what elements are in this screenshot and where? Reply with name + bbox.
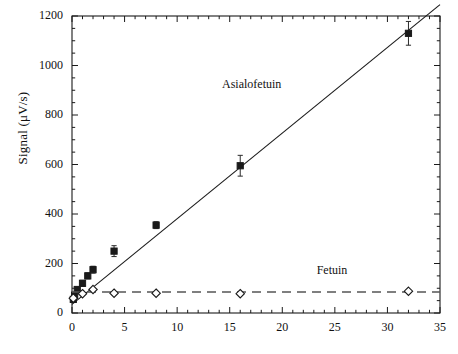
data-point-fetuin bbox=[404, 287, 412, 295]
data-point-asialofetuin bbox=[111, 248, 117, 254]
y-axis-tick-label: 800 bbox=[20, 107, 63, 122]
x-axis-tick-label: 35 bbox=[420, 320, 458, 335]
y-axis-tick-label: 0 bbox=[20, 305, 63, 320]
x-axis-tick-label: 10 bbox=[157, 320, 197, 335]
asialofetuin-regression-line bbox=[72, 5, 440, 305]
data-point-asialofetuin bbox=[85, 273, 91, 279]
data-point-asialofetuin bbox=[153, 222, 159, 228]
x-axis-tick-label: 20 bbox=[262, 320, 302, 335]
y-axis-tick-label: 400 bbox=[20, 206, 63, 221]
chart-figure: Signal (μV/s) 02004006008001000120005101… bbox=[0, 0, 458, 354]
y-axis-tick-label: 600 bbox=[20, 157, 63, 172]
series-label-fetuin: Fetuin bbox=[317, 263, 348, 278]
x-axis-tick-label: 5 bbox=[105, 320, 145, 335]
data-point-asialofetuin bbox=[90, 267, 96, 273]
x-axis-tick-label: 0 bbox=[52, 320, 92, 335]
x-axis-tick-label: 30 bbox=[367, 320, 407, 335]
data-point-fetuin bbox=[110, 289, 118, 297]
x-axis-tick-label: 25 bbox=[315, 320, 355, 335]
series-label-asialofetuin: Asialofetuin bbox=[222, 77, 281, 92]
data-point-asialofetuin bbox=[237, 163, 243, 169]
data-point-fetuin bbox=[152, 289, 160, 297]
y-axis-tick-label: 1000 bbox=[20, 58, 63, 73]
series-fetuin bbox=[69, 285, 440, 302]
y-axis-tick-label: 200 bbox=[20, 256, 63, 271]
data-point-fetuin bbox=[236, 289, 244, 297]
plot-canvas bbox=[0, 0, 458, 354]
x-axis-tick-label: 15 bbox=[210, 320, 250, 335]
plot-frame bbox=[72, 16, 440, 313]
data-point-asialofetuin bbox=[405, 30, 411, 36]
series-asialofetuin bbox=[70, 5, 440, 305]
y-axis-tick-label: 1200 bbox=[20, 8, 63, 23]
data-point-asialofetuin bbox=[79, 280, 85, 286]
